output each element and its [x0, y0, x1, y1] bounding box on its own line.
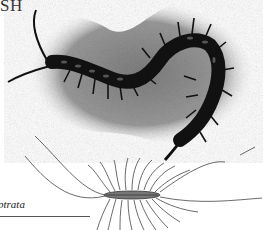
centipede-photo-icon [8, 0, 256, 160]
caption-leader-line [0, 216, 90, 217]
figures-canvas [0, 0, 263, 230]
figure-caption: ptrata [0, 198, 25, 210]
